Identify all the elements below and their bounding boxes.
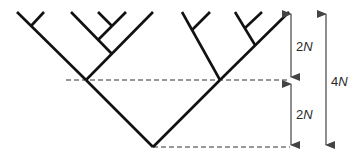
- tree-branches: [17, 12, 289, 147]
- upper-interval-label: 2N: [296, 39, 313, 54]
- coalescent-tree-diagram: 2N 2N 4N: [0, 0, 364, 160]
- lower-interval-label: 2N: [296, 107, 313, 122]
- total-interval-label: 4N: [331, 74, 348, 89]
